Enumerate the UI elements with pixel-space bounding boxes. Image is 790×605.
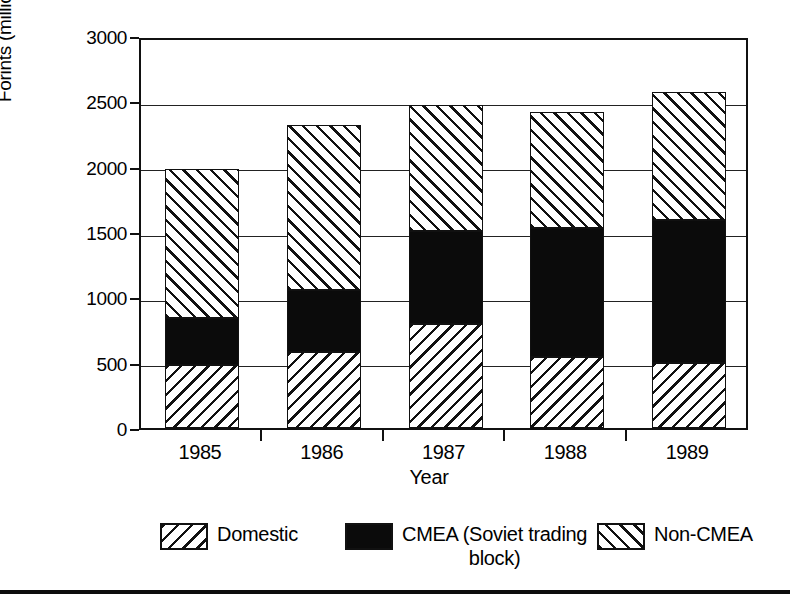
bar-segment-1986-cmea xyxy=(287,290,361,351)
legend-label: Domestic xyxy=(217,522,298,546)
bar-segment-1986-domestic xyxy=(287,352,361,428)
y-tick-label: 1500 xyxy=(57,224,127,243)
bar-1985 xyxy=(165,36,239,428)
y-tick-mark xyxy=(130,37,139,39)
y-tick-mark xyxy=(130,364,139,366)
bar-segment-1985-cmea xyxy=(165,318,239,366)
y-tick-mark xyxy=(130,298,139,300)
bar-segment-1986-non-cmea xyxy=(287,125,361,290)
y-tick-label: 2000 xyxy=(57,159,127,178)
y-tick-label: 2500 xyxy=(57,93,127,112)
x-tick-label-1987: 1987 xyxy=(389,442,499,462)
page-bottom-rule xyxy=(0,590,790,594)
bar-segment-1987-cmea xyxy=(409,231,483,324)
y-tick-label: 500 xyxy=(57,355,127,374)
bar-segment-1989-non-cmea xyxy=(652,92,726,220)
x-tick-mark xyxy=(503,430,505,441)
bar-segment-1988-non-cmea xyxy=(530,112,604,228)
plot-area xyxy=(139,38,748,430)
x-tick-label-1989: 1989 xyxy=(632,442,742,462)
legend-label: Non-CMEA xyxy=(654,522,753,546)
x-tick-label-1985: 1985 xyxy=(145,442,255,462)
legend-label: CMEA (Soviet trading block) xyxy=(402,522,587,570)
x-tick-label-1988: 1988 xyxy=(510,442,620,462)
x-axis-title: Year xyxy=(34,466,790,489)
legend-item-1: CMEA (Soviet trading block) xyxy=(345,522,587,570)
bar-segment-1988-cmea xyxy=(530,228,604,357)
legend-swatch-icon xyxy=(160,523,208,550)
x-tick-mark xyxy=(382,430,384,441)
bar-segment-1985-non-cmea xyxy=(165,169,239,318)
x-tick-mark xyxy=(625,430,627,441)
y-tick-mark xyxy=(130,429,139,431)
bar-segment-1989-domestic xyxy=(652,363,726,428)
bar-1989 xyxy=(652,36,726,428)
legend-item-2: Non-CMEA xyxy=(597,522,753,550)
bar-1988 xyxy=(530,36,604,428)
y-tick-label: 1000 xyxy=(57,289,127,308)
x-tick-label-1986: 1986 xyxy=(267,442,377,462)
bar-segment-1987-domestic xyxy=(409,324,483,428)
legend-swatch-icon xyxy=(345,523,393,550)
y-tick-mark xyxy=(130,233,139,235)
y-tick-mark xyxy=(130,102,139,104)
chart-legend: DomesticCMEA (Soviet trading block)Non-C… xyxy=(0,512,790,574)
legend-item-0: Domestic xyxy=(160,522,298,550)
x-tick-mark xyxy=(260,430,262,441)
y-tick-label: 0 xyxy=(57,420,127,439)
bar-segment-1985-domestic xyxy=(165,365,239,428)
y-axis-title: Forints (millions) xyxy=(0,0,16,150)
bar-segment-1987-non-cmea xyxy=(409,105,483,231)
bar-1986 xyxy=(287,36,361,428)
bar-segment-1988-domestic xyxy=(530,357,604,428)
y-tick-label: 3000 xyxy=(57,28,127,47)
legend-swatch-icon xyxy=(597,523,645,550)
y-tick-mark xyxy=(130,168,139,170)
bar-1987 xyxy=(409,36,483,428)
chart-figure: Forints (millions) 050010001500200025003… xyxy=(0,0,790,605)
bar-segment-1989-cmea xyxy=(652,220,726,362)
